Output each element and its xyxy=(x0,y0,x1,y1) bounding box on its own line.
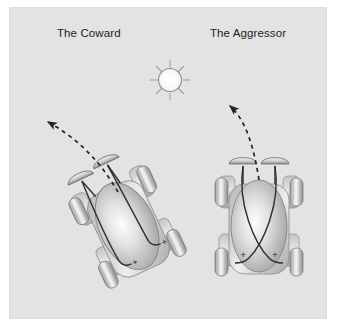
figure-canvas: The Coward The Aggressor xyxy=(0,0,338,336)
vehicle-label-coward: The Coward xyxy=(57,27,121,39)
diagram-panel xyxy=(10,8,326,318)
vehicle-label-aggressor: The Aggressor xyxy=(210,27,286,39)
